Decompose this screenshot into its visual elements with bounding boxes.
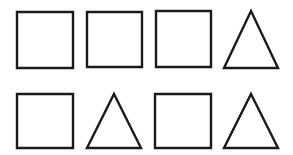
canvas-background — [0, 0, 293, 155]
shapes-canvas — [0, 0, 293, 155]
